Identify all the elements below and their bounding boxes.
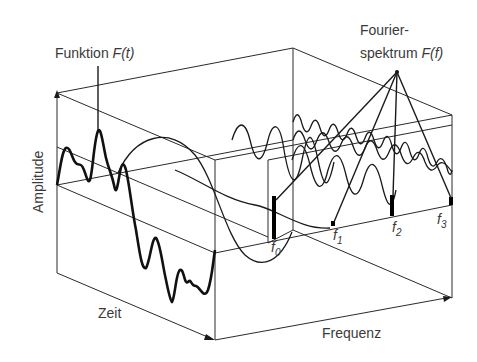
freq-label-f2: f2 [392,219,402,238]
freq-label-f3: f3 [437,211,447,230]
component-wave-smooth [175,170,330,228]
spectrum-label-line2: spektrum F(f) [360,45,443,61]
zero-line-left [57,185,215,253]
time-axis-label: Zeit [98,305,121,321]
frequency-components [118,115,452,263]
box-edge-top-left-diag [57,93,215,160]
time-arrow-icon [204,334,215,340]
component-wave-f1b [292,146,396,205]
spectrum-bars [274,195,451,239]
time-signal-curve [57,130,215,302]
amplitude-axis-label: Amplitude [30,151,46,213]
freq-label-f1: f1 [333,227,342,246]
coordinate-box [54,48,452,340]
bottom-back-diagonal [293,230,452,298]
frequency-axis-label: Frequenz [322,325,381,341]
spectrum-label-line1: Fourier- [360,22,409,38]
spectrum-pointer-f3 [397,72,451,198]
freq-label-f0: f0 [271,239,281,258]
fourier-transform-diagram: Funktion F(t) Fourier- spektrum F(f) Amp… [0,0,477,362]
function-label: Funktion F(t) [55,45,134,61]
spectrum-pointer-f1 [334,72,397,222]
